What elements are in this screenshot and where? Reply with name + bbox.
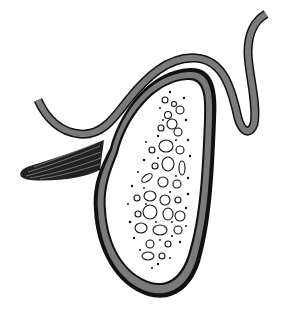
illustration-canvas bbox=[0, 0, 285, 313]
cystic-muscle bbox=[20, 140, 104, 181]
gallbladder-illustration bbox=[0, 0, 285, 313]
gallbladder-wall bbox=[94, 68, 217, 298]
